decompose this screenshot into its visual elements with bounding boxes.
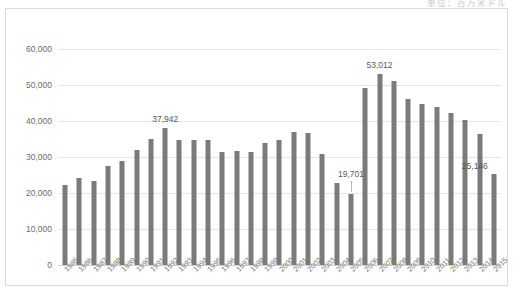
bar[interactable] (77, 178, 82, 265)
bar-slot (330, 49, 344, 265)
bar-slot (158, 49, 172, 265)
bar[interactable] (120, 161, 125, 265)
bar-slot (172, 49, 186, 265)
bar[interactable] (306, 133, 311, 265)
bar-slot (415, 49, 429, 265)
bar-slot (401, 49, 415, 265)
bar-slot (315, 49, 329, 265)
bar[interactable] (220, 152, 225, 265)
y-axis-tick-label: 0 (47, 261, 52, 270)
y-axis-tick-label: 60,000 (26, 45, 52, 54)
bar[interactable] (477, 134, 482, 265)
bar-slot (458, 49, 472, 265)
bar[interactable] (148, 139, 153, 265)
chart-frame: 010,00020,00030,00040,00050,00060,000 19… (5, 8, 508, 286)
y-axis-tick-label: 50,000 (26, 81, 52, 90)
bar-slot (144, 49, 158, 265)
bar-slot (287, 49, 301, 265)
bar-slot (487, 49, 501, 265)
bar[interactable] (263, 143, 268, 265)
bar-slot (301, 49, 315, 265)
clipped-header-strip: 単位：百万米ドル (0, 0, 515, 8)
bar-slot (101, 49, 115, 265)
bar-slot (115, 49, 129, 265)
bar[interactable] (334, 183, 339, 265)
bar-slot (344, 49, 358, 265)
bar[interactable] (320, 154, 325, 265)
bar[interactable] (234, 151, 239, 265)
y-axis-tick-label: 40,000 (26, 117, 52, 126)
bar-slot (372, 49, 386, 265)
bar[interactable] (277, 140, 282, 265)
bar[interactable] (177, 140, 182, 265)
bar-slot (87, 49, 101, 265)
bar-slot (244, 49, 258, 265)
bar[interactable] (420, 104, 425, 265)
bar[interactable] (348, 194, 353, 265)
bar[interactable] (406, 99, 411, 265)
data-label: 37,942 (152, 115, 178, 124)
bar-slot (129, 49, 143, 265)
data-label: 19,701 (338, 170, 364, 179)
bar[interactable] (448, 113, 453, 265)
data-label: 53,012 (367, 61, 393, 70)
bar[interactable] (106, 166, 111, 265)
bar-slot (58, 49, 72, 265)
bar[interactable] (491, 174, 496, 265)
bar[interactable] (91, 181, 96, 265)
bar-slot (358, 49, 372, 265)
bar[interactable] (134, 150, 139, 265)
bar[interactable] (391, 81, 396, 265)
bar-slot (272, 49, 286, 265)
bar-slot (187, 49, 201, 265)
bar[interactable] (63, 185, 68, 265)
bar[interactable] (191, 140, 196, 265)
bar-slot (229, 49, 243, 265)
chart-screenshot: 単位：百万米ドル 010,00020,00030,00040,00050,000… (0, 0, 515, 293)
bar[interactable] (163, 128, 168, 265)
unit-caption: 単位：百万米ドル (427, 0, 507, 8)
bar-slot (430, 49, 444, 265)
bar-series (58, 49, 501, 265)
bar[interactable] (463, 120, 468, 265)
bar-slot (444, 49, 458, 265)
data-label: 25,146 (462, 162, 488, 171)
y-axis-tick-label: 30,000 (26, 153, 52, 162)
plot-area: 010,00020,00030,00040,00050,00060,000 19… (58, 49, 501, 265)
bar[interactable] (434, 107, 439, 265)
bar-slot (472, 49, 486, 265)
bar-slot (72, 49, 86, 265)
bar[interactable] (248, 152, 253, 265)
bar-slot (258, 49, 272, 265)
y-axis-tick-label: 20,000 (26, 189, 52, 198)
bar[interactable] (206, 140, 211, 265)
y-axis-tick-label: 10,000 (26, 225, 52, 234)
bar-slot (201, 49, 215, 265)
bar-slot (387, 49, 401, 265)
bar[interactable] (291, 132, 296, 265)
leader-line (351, 181, 352, 192)
bar[interactable] (377, 74, 382, 265)
bar-slot (215, 49, 229, 265)
